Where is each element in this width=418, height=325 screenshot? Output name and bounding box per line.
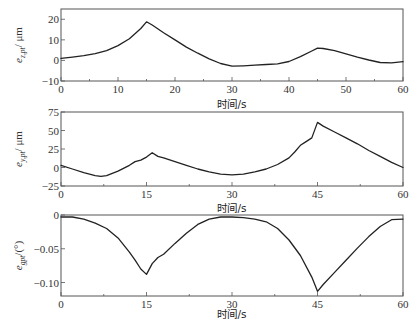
x-tick-label: 50 (341, 83, 353, 95)
x-tick-label: 30 (227, 188, 239, 200)
y-tick-label: 0 (54, 54, 60, 66)
chart-panel-2: 015304560−250255075时间/sey,pt/ μm (12, 106, 409, 214)
x-tick-label: 10 (113, 83, 125, 95)
x-tick-label: 45 (312, 298, 324, 310)
y-tick-label: −25 (42, 180, 60, 192)
x-tick-label: 20 (170, 83, 182, 95)
y-tick-label: −0.10 (34, 277, 60, 289)
chart-figure: 0102030405060−1001020时间/sez,pt/ μm015304… (0, 0, 418, 325)
y-axis-title: ey,pt/ μm (12, 131, 27, 167)
y-tick-label: 0 (54, 162, 60, 174)
x-axis-title: 时间/s (217, 308, 246, 320)
x-tick-label: 15 (141, 298, 153, 310)
series-line (61, 217, 403, 291)
series-line (61, 122, 403, 176)
x-tick-label: 60 (398, 298, 410, 310)
x-axis-title: 时间/s (217, 98, 246, 110)
y-tick-label: 75 (48, 106, 60, 118)
y-tick-label: −10 (42, 75, 60, 87)
y-tick-label: 25 (48, 143, 60, 155)
y-tick-label: 0 (54, 209, 60, 221)
plot-frame (61, 9, 403, 81)
y-axis-title: ez,pt/ μm (12, 27, 27, 63)
y-axis-title: egpt/(°) (12, 241, 27, 271)
y-axis-title-unit: / μm (12, 27, 24, 48)
x-tick-label: 0 (58, 298, 64, 310)
x-tick-label: 45 (312, 188, 324, 200)
x-tick-label: 60 (398, 83, 410, 95)
chart-panel-1: 0102030405060−1001020时间/sez,pt/ μm (12, 9, 409, 110)
y-tick-label: 20 (48, 13, 60, 25)
series-line (61, 22, 403, 66)
y-tick-label: −0.05 (34, 243, 60, 255)
y-axis-title-unit: /(°) (12, 241, 25, 256)
plot-frame (61, 215, 403, 296)
x-tick-label: 60 (398, 188, 410, 200)
chart-panel-3: 015304560−0.10−0.050时间/segpt/(°) (12, 209, 409, 320)
x-tick-label: 40 (284, 83, 296, 95)
y-tick-label: 50 (48, 125, 60, 137)
x-tick-label: 0 (58, 83, 64, 95)
x-tick-label: 15 (141, 188, 153, 200)
y-tick-label: 10 (48, 34, 60, 46)
y-axis-title-unit: / μm (12, 131, 24, 152)
x-tick-label: 30 (227, 83, 239, 95)
x-tick-label: 0 (58, 188, 64, 200)
x-axis-title: 时间/s (217, 202, 246, 214)
